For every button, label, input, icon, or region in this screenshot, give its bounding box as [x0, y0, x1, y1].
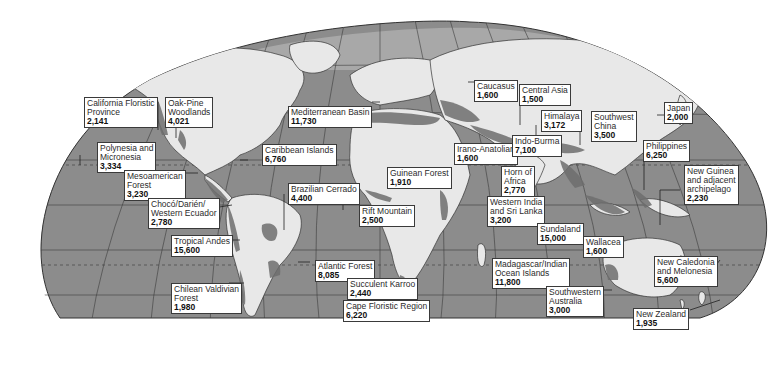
hotspot-label: Caucasus 1,600	[474, 80, 518, 102]
hotspot-label: Guinean Forest 1,910	[387, 167, 452, 189]
hotspot-label: Caribbean Islands 6,760	[262, 144, 337, 166]
hotspot-label: Chocó/Darién/ Western Ecuador 2,780	[148, 198, 220, 229]
hotspot-label: California Floristic Province 2,141	[84, 97, 158, 128]
hotspot-label: Wallacea 1,600	[583, 236, 624, 258]
hotspot-label: Polynesia and Micronesia 3,334	[97, 142, 156, 173]
hotspot-label: Indo-Burma 7,100	[512, 135, 562, 157]
hotspot-label: Mediterranean Basin 11,730	[288, 106, 372, 128]
hotspot-label: Madagascar/Indian Ocean Islands 11,800	[492, 258, 570, 289]
hotspot-label: Japan 2,000	[664, 102, 693, 124]
hotspot-label: Southwestern Australia 3,000	[546, 286, 604, 317]
hotspot-label: Irano-Anatolian 1,600	[454, 143, 518, 165]
hotspot-label: Succulent Karroo 2,440	[347, 278, 418, 300]
hotspot-label: Tropical Andes 15,600	[171, 235, 233, 257]
hotspot-label: Rift Mountain 2,500	[359, 205, 415, 227]
hotspot-label: Cape Floristic Region 6,220	[343, 300, 430, 322]
hotspot-label: Horn of Africa 2,770	[501, 166, 535, 197]
hotspot-label: New Zealand 1,935	[633, 308, 689, 330]
hotspot-label: Brazilian Cerrado 4,400	[288, 183, 360, 205]
hotspot-label: Chilean Valdivian Forest 1,980	[171, 283, 242, 314]
hotspot-label: New Caledonia and Melonesia 5,600	[654, 256, 718, 287]
hotspot-label: Central Asia 1,500	[519, 84, 571, 106]
hotspot-label: Mesoamerican Forest 3,230	[124, 170, 186, 201]
hotspot-label: Philippines 6,250	[643, 140, 690, 162]
hotspot-label: Himalaya 3,172	[541, 110, 582, 132]
hotspot-label: Oak-Pine Woodlands 4,021	[165, 97, 213, 128]
hotspot-label: New Guinea and adjacent archipelago 2,23…	[684, 165, 739, 205]
hotspot-label: Southwest China 3,500	[591, 111, 637, 142]
hotspot-label: Sundaland 15,000	[537, 223, 584, 245]
